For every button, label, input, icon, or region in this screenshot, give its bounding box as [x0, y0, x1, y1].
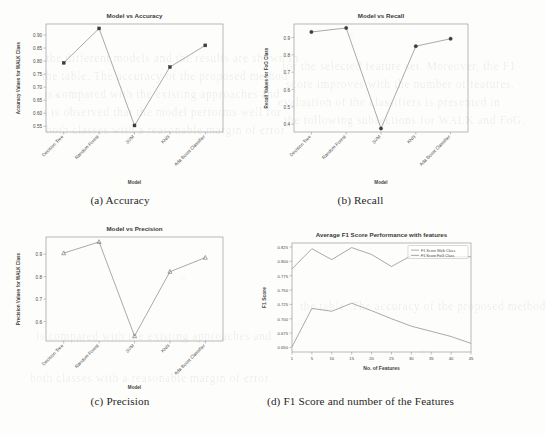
plot-frame — [292, 243, 471, 352]
y-tick-label: 0.650 — [278, 345, 289, 350]
y-tick-label: 0.90 — [33, 33, 42, 38]
x-tick-label: 40 — [449, 356, 454, 361]
chart-accuracy: Model vs Accuracy0.550.600.650.700.750.8… — [0, 4, 240, 194]
x-axis-label: Model — [128, 180, 141, 185]
y-tick-label: 0.55 — [33, 124, 42, 129]
x-tick-label: Ada Boost Classifier — [173, 134, 206, 167]
y-tick-label: 0.80 — [33, 59, 42, 64]
legend-label: F1 Score Walk Class — [421, 249, 455, 253]
x-tick-label: SVM — [371, 134, 382, 145]
y-tick-label: 0.65 — [33, 98, 42, 103]
y-axis-label: Accuracy Values for WALK Class — [16, 41, 21, 114]
x-tick-label: SVM — [125, 134, 136, 145]
figure-accuracy: Model vs Accuracy0.550.600.650.700.750.8… — [0, 4, 240, 206]
x-tick-label: KNN — [160, 343, 170, 353]
data-point — [98, 27, 101, 30]
x-tick-label: 35 — [429, 356, 434, 361]
y-tick-label: 0.7 — [36, 297, 43, 302]
x-tick-label: 5 — [311, 356, 314, 361]
y-tick-label: 0.7 — [284, 70, 291, 75]
y-tick-label: 0.700 — [278, 317, 289, 322]
y-axis-label: F1 Score — [261, 287, 267, 308]
data-line — [311, 28, 450, 129]
x-tick-label: 20 — [369, 356, 374, 361]
x-tick-label: KNN — [406, 134, 416, 144]
x-tick-label: Ada Boost Classifier — [419, 134, 452, 167]
x-tick-label: Random Forest — [74, 134, 100, 160]
x-tick-label: KNN — [160, 134, 170, 144]
y-axis-label: Recall Values for FoG Class — [264, 47, 269, 108]
x-tick-label: 25 — [389, 356, 394, 361]
x-axis-label: No. of Features — [363, 365, 400, 371]
legend-label: F1 Score FoG Class — [421, 254, 455, 258]
x-tick-label: Random Forest — [321, 134, 347, 160]
y-tick-label: 0.8 — [284, 53, 291, 58]
plot-frame — [46, 237, 223, 341]
data-line — [64, 28, 206, 125]
data-point — [203, 255, 207, 259]
x-tick-label: Decision Tree — [41, 343, 65, 367]
y-tick-label: 0.775 — [278, 274, 289, 279]
y-tick-label: 0.70 — [33, 85, 42, 90]
data-point — [345, 26, 348, 29]
y-tick-label: 0.4 — [284, 122, 291, 127]
x-tick-label: Decision Tree — [289, 134, 313, 158]
chart-precision: Model vs Precision0.60.70.80.9Decision T… — [0, 219, 240, 395]
figure-precision: Model vs Precision0.60.70.80.9Decision T… — [0, 219, 240, 407]
x-axis-label: Model — [128, 385, 141, 390]
y-tick-label: 0.9 — [36, 252, 43, 257]
figure-f1-features: Average F1 Score Performance with featur… — [240, 219, 481, 407]
figure-caption-accuracy: (a) Accuracy — [0, 194, 240, 206]
y-tick-label: 0.6 — [284, 88, 291, 93]
x-tick-label: Decision Tree — [41, 134, 65, 158]
data-line-series-1 — [292, 303, 471, 347]
y-tick-label: 0.825 — [278, 245, 289, 250]
plot-frame — [294, 24, 468, 132]
x-tick-label: SVM — [125, 343, 136, 354]
data-point — [62, 61, 65, 64]
figure-caption-f1-features: (d) F1 Score and number of the Features — [240, 395, 481, 407]
figure-recall: Model vs Recall0.40.50.60.70.80.9Decisio… — [240, 4, 481, 206]
data-point — [204, 44, 207, 47]
x-axis-label: Model — [374, 180, 387, 185]
chart-title: Model vs Accuracy — [107, 12, 163, 19]
data-point — [449, 37, 452, 40]
y-tick-label: 0.60 — [33, 111, 42, 116]
chart-title: Average F1 Score Performance with featur… — [316, 231, 448, 238]
data-point — [310, 30, 313, 33]
figure-caption-precision: (c) Precision — [0, 395, 240, 407]
y-tick-label: 0.85 — [33, 46, 42, 51]
y-tick-label: 0.75 — [33, 72, 42, 77]
y-tick-label: 0.750 — [278, 288, 289, 293]
x-tick-label: Random Forest — [74, 343, 100, 369]
chart-recall: Model vs Recall0.40.50.60.70.80.9Decisio… — [240, 4, 481, 194]
x-tick-label: 10 — [329, 356, 334, 361]
y-tick-label: 0.725 — [278, 302, 289, 307]
x-tick-label: Ada Boost Classifier — [173, 343, 206, 376]
y-axis-label: Precision Values for WALK Class — [16, 252, 21, 325]
chart-f1-features: Average F1 Score Performance with featur… — [240, 219, 481, 395]
figure-caption-recall: (b) Recall — [240, 194, 481, 206]
chart-legend: F1 Score Walk ClassF1 Score FoG Class — [408, 246, 468, 259]
y-tick-label: 0.6 — [36, 320, 43, 325]
y-tick-label: 0.5 — [284, 105, 291, 110]
y-tick-label: 0.8 — [36, 275, 43, 280]
x-tick-label: 15 — [349, 356, 354, 361]
y-tick-label: 0.800 — [278, 259, 289, 264]
y-tick-label: 0.9 — [284, 36, 291, 41]
x-tick-label: 1 — [291, 356, 294, 361]
data-point — [379, 127, 382, 130]
data-line — [64, 242, 206, 336]
chart-title: Model vs Recall — [358, 12, 405, 19]
data-point — [168, 66, 171, 69]
x-tick-label: 45 — [469, 356, 474, 361]
data-point — [414, 44, 417, 47]
y-tick-label: 0.675 — [278, 331, 289, 336]
x-tick-label: 30 — [409, 356, 414, 361]
plot-frame — [46, 24, 223, 132]
chart-title: Model vs Precision — [106, 225, 162, 232]
data-point — [133, 124, 136, 127]
